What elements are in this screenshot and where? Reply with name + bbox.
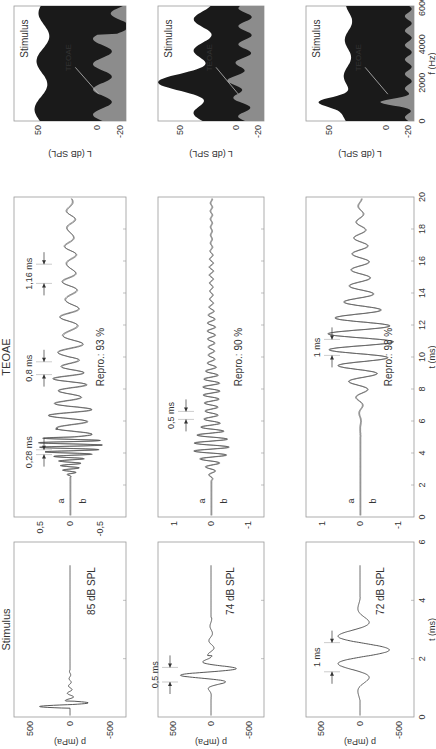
repro-label: Repro.: 98 % [383,328,394,386]
teoae-spectrum-label: TEOAE [205,44,214,71]
stimulus-trace [40,565,89,715]
y-tick-label: 500 [25,721,35,736]
series-a-label: a [56,498,66,503]
interval-label: 0,8 ms [24,354,34,382]
y-axis-label: p (mPa) [195,737,227,747]
teoae-spectrum-label: TEOAE [354,44,363,71]
interval-label: 0,5 ms [166,401,176,429]
oae-figure: 5000-500p (mPa)85 dB SPL0,50-0,5abRepro.… [0,0,436,749]
x-tick-label: 6000 [417,0,427,16]
y-tick-label: 1 [169,521,179,526]
y-tick-label: 0 [381,125,391,130]
x-tick-label: 2000 [417,73,427,93]
interval-label: 0,28 ms [24,436,34,469]
interval-label: 1,16 ms [24,257,34,290]
y-tick-label: 500 [168,721,178,736]
arrowhead-icon [330,672,334,676]
y-tick-label: -0,5 [95,521,105,537]
x-tick-label: 10 [417,352,427,362]
y-tick-label: 0 [355,721,365,726]
y-tick-label: -20 [403,125,413,138]
y-tick-label: 50 [324,125,334,135]
arrowhead-icon [42,358,46,362]
y-tick-label: 0 [65,721,75,726]
arrowhead-icon [184,407,188,411]
x-tick-label: 4000 [417,34,427,54]
y-tick-label: 0 [231,125,241,130]
repro-label: Repro.: 93 % [95,328,106,386]
x-tick-label: 4 [417,450,427,455]
x-tick-label: 20 [417,192,427,202]
arrowhead-icon [330,355,334,359]
x-axis-label: t (ms) [427,346,436,369]
y-tick-label: -500 [394,721,404,739]
x-tick-label: 4 [417,598,427,603]
arrowhead-icon [42,375,46,379]
x-tick-label: 16 [417,256,427,266]
x-tick-label: 14 [417,288,427,298]
repro-label: Repro.: 90 % [233,328,244,386]
y-axis-label: L (dB SPL) [338,149,382,159]
spectrum-title: Stimulus [311,19,322,57]
stimulus-title: Stimulus [0,608,12,651]
y-axis-label: p (mPa) [54,737,86,747]
interval-label: 0,5 ms [150,661,160,689]
y-tick-label: 1 [317,521,327,526]
x-axis-label: f (Hz) [427,53,436,75]
x-tick-label: 6 [417,418,427,423]
series-b-label: b [78,498,88,503]
y-axis-label: L (dB SPL) [48,149,92,159]
teoae-title: TEOAE [0,338,12,375]
x-tick-label: 8 [417,386,427,391]
arrowhead-icon [42,260,46,264]
y-tick-label: 50 [175,125,185,135]
x-tick-label: 6 [417,539,427,544]
spectrum-title: Stimulus [163,19,174,57]
figure: 5000-500p (mPa)85 dB SPL0,50-0,5abRepro.… [0,0,436,749]
y-tick-label: 0 [206,721,216,726]
y-tick-label: 0 [206,521,216,526]
x-tick-label: 2 [417,482,427,487]
arrowhead-icon [168,663,172,667]
x-tick-label: 0 [417,118,427,123]
y-tick-label: -20 [115,125,125,138]
series-a-label: a [346,498,356,503]
level-label: 74 dB SPL [225,567,236,615]
arrowhead-icon [42,455,46,459]
x-axis-label: t (ms) [427,618,436,641]
interval-label: 1 ms [312,337,322,357]
y-axis-label: p (mPa) [344,737,376,747]
y-axis-label: L (dB SPL) [189,149,233,159]
teoae-spectrum-label: TEOAE [64,44,73,71]
y-tick-label: -500 [105,721,115,739]
spectrum-title: Stimulus [19,19,30,57]
series-a-label: a [197,498,207,503]
y-tick-label: -1 [393,521,403,529]
x-tick-label: 0 [417,714,427,719]
arrowhead-icon [330,639,334,643]
teoae-trace [40,199,103,516]
series-b-label: b [368,498,378,503]
y-tick-label: -500 [244,721,254,739]
y-tick-label: 500 [316,721,326,736]
arrowhead-icon [168,682,172,686]
y-tick-label: 0 [92,125,102,130]
y-tick-label: 0 [65,521,75,526]
x-tick-label: 0 [417,514,427,519]
interval-label: 1 ms [312,647,322,667]
y-tick-label: 0 [355,521,365,526]
arrowhead-icon [184,419,188,423]
series-b-label: b [219,498,229,503]
y-tick-label: 50 [33,125,43,135]
y-tick-label: -20 [253,125,263,138]
level-label: 85 dB SPL [86,567,97,615]
x-tick-label: 12 [417,320,427,330]
arrowhead-icon [330,335,334,339]
y-tick-label: -1 [243,521,253,529]
arrowhead-icon [42,283,46,287]
level-label: 72 dB SPL [375,567,386,615]
x-tick-label: 18 [417,224,427,234]
x-tick-label: 2 [417,656,427,661]
y-tick-label: 0,5 [35,521,45,534]
